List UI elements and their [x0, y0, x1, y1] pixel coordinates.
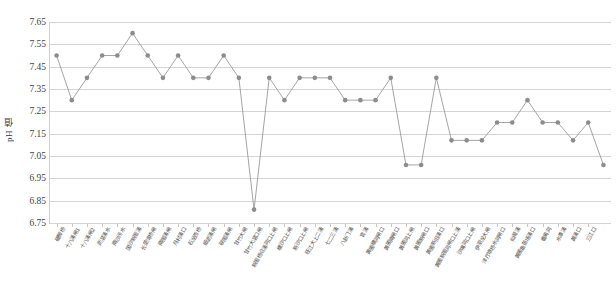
x-axis-tick-mark: [300, 224, 301, 227]
x-axis-tick-label: 细沥涌闸: [201, 226, 218, 247]
data-point: [85, 76, 90, 81]
data-point: [145, 53, 150, 58]
x-axis-tick-mark: [406, 224, 407, 227]
data-point: [252, 207, 257, 212]
x-axis-tick-mark: [148, 224, 149, 227]
x-axis-tick-mark: [315, 224, 316, 227]
x-axis-tick-mark: [133, 224, 134, 227]
x-axis-tick-label: 月村涌口: [171, 226, 188, 247]
x-axis-tick-label: 南围涌闸: [156, 226, 173, 247]
x-axis-tick-label: 石龙西桥: [186, 226, 203, 247]
x-axis-tick-mark: [452, 224, 453, 227]
x-axis-tick-label: 番禺河: [538, 226, 552, 243]
series-line: [57, 33, 604, 209]
data-point: [130, 31, 135, 36]
data-point: [525, 98, 530, 103]
data-point: [206, 76, 211, 81]
x-axis-tick-mark: [345, 224, 346, 227]
y-axis-tick-label: 7.45: [16, 62, 46, 72]
data-point: [69, 98, 74, 103]
y-axis-tick-label: 7.35: [16, 84, 46, 94]
y-axis-tick-label: 6.95: [16, 173, 46, 183]
x-axis-tick-mark: [102, 224, 103, 227]
data-point: [343, 98, 348, 103]
y-axis-tick-label: 7.65: [16, 17, 46, 27]
data-point: [161, 76, 166, 81]
data-point: [358, 98, 363, 103]
data-point: [556, 120, 561, 125]
x-axis-tick-label: 七二三涌: [323, 226, 340, 247]
x-axis-tick-label: 三江口: [584, 226, 598, 243]
x-axis-tick-mark: [391, 224, 392, 227]
data-point: [480, 138, 485, 143]
x-axis-tick-mark: [57, 224, 58, 227]
data-point: [601, 163, 606, 168]
data-point: [176, 53, 181, 58]
data-point: [373, 98, 378, 103]
x-axis-tick-mark: [482, 224, 483, 227]
x-axis-tick-labels: 硬脚桥十八涌闸1十八涌闸2沥滘涌水南沙污水国沙新围涌长垄湾桥闸南围涌闸月村涌口石…: [49, 224, 611, 290]
x-axis-tick-label: 黄涌口: [569, 226, 583, 243]
x-axis-tick-mark: [467, 224, 468, 227]
x-axis-tick-mark: [163, 224, 164, 227]
data-point: [313, 76, 318, 81]
x-axis-tick-label: 官涌: [358, 226, 370, 239]
x-axis-tick-mark: [558, 224, 559, 227]
x-axis-tick-mark: [421, 224, 422, 227]
data-point: [388, 76, 393, 81]
data-point: [115, 53, 120, 58]
data-point: [586, 120, 591, 125]
x-axis-tick-mark: [72, 224, 73, 227]
x-axis-tick-mark: [254, 224, 255, 227]
data-point: [221, 53, 226, 58]
data-point: [237, 76, 242, 81]
x-axis-tick-label: 联围涌闸: [217, 226, 234, 247]
x-axis-tick-mark: [178, 224, 179, 227]
data-point: [571, 138, 576, 143]
x-axis-tick-mark: [376, 224, 377, 227]
plot-area: [49, 22, 611, 223]
x-axis-tick-mark: [87, 224, 88, 227]
data-point: [419, 163, 424, 168]
data-point: [464, 138, 469, 143]
y-axis-tick-label: 7.15: [16, 129, 46, 139]
data-point: [191, 76, 196, 81]
data-point: [328, 76, 333, 81]
x-axis-tick-mark: [497, 224, 498, 227]
x-axis-tick-mark: [588, 224, 589, 227]
x-axis-tick-label: 仙阁涌: [508, 226, 522, 243]
data-point: [434, 76, 439, 81]
x-axis-tick-mark: [224, 224, 225, 227]
x-axis-tick-label: 水潭涌: [553, 226, 567, 243]
data-point: [297, 76, 302, 81]
x-axis-tick-label: 沥滘涌水: [95, 226, 112, 247]
x-axis-tick-label: 硬脚桥: [52, 226, 66, 243]
data-point: [540, 120, 545, 125]
y-axis-tick-label: 6.85: [16, 196, 46, 206]
data-point: [54, 53, 59, 58]
y-axis-title: pH 值: [0, 95, 16, 165]
data-point: [510, 120, 515, 125]
data-point: [282, 98, 287, 103]
x-axis-tick-label: 八卦门涌: [338, 226, 355, 247]
x-axis-tick-mark: [573, 224, 574, 227]
x-axis-tick-mark: [239, 224, 240, 227]
data-point: [100, 53, 105, 58]
ph-line-chart: pH 值 7.657.557.457.357.257.157.056.956.8…: [0, 0, 616, 290]
y-axis-tick-label: 7.25: [16, 106, 46, 116]
data-point: [404, 163, 409, 168]
y-axis-tick-label: 6.75: [16, 218, 46, 228]
data-point: [267, 76, 272, 81]
y-axis-tick-label: 7.55: [16, 39, 46, 49]
x-axis-tick-mark: [269, 224, 270, 227]
y-axis-tick-labels: 7.657.557.457.357.257.157.056.956.856.75: [16, 0, 48, 240]
data-point: [495, 120, 500, 125]
data-point: [449, 138, 454, 143]
series-ph: [49, 22, 611, 223]
y-axis-tick-label: 7.05: [16, 151, 46, 161]
x-axis-tick-mark: [330, 224, 331, 227]
x-axis-tick-mark: [543, 224, 544, 227]
